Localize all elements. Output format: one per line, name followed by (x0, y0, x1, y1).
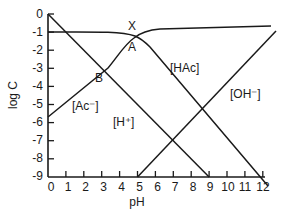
y-tick-label: -9 (32, 169, 43, 183)
x-tick-label: 4 (118, 180, 125, 194)
y-tick-label: 0 (36, 7, 43, 21)
oh-minus-line (138, 31, 277, 177)
x-tick-label: 9 (207, 180, 214, 194)
y-tick-label: -7 (32, 133, 43, 147)
x-tick-label: 11 (239, 180, 252, 194)
x-tick-label: 8 (190, 180, 197, 194)
x-tick-label: 2 (82, 180, 89, 194)
x-tick-label: 5 (136, 180, 143, 194)
y-tick-label: -2 (32, 43, 43, 57)
h-plus-label: [H⁺] (113, 115, 134, 129)
x-tick-label: 1 (65, 180, 72, 194)
y-tick-label: -8 (32, 151, 43, 165)
log-c-ph-chart: 0 -1 -2 -3 -4 -5 -6 -7 -8 -9 0 1 2 3 4 5… (0, 0, 286, 219)
x-tick-label: 12 (256, 180, 270, 194)
x-ticks (66, 171, 263, 177)
x-tick-labels: 0 1 2 3 4 5 6 7 8 9 10 11 12 (48, 180, 270, 194)
y-tick-label: -5 (32, 97, 43, 111)
h-plus-line (48, 14, 209, 177)
y-tick-label: -1 (32, 25, 43, 39)
annotations: X A B [HAc] [OH⁻] [Ac⁻] [H⁺] (72, 19, 261, 129)
point-x-label: X (128, 19, 136, 33)
y-tick-label: -4 (32, 79, 43, 93)
y-tick-labels: 0 -1 -2 -3 -4 -5 -6 -7 -8 -9 (32, 7, 43, 183)
point-a-label: A (128, 40, 136, 54)
y-tick-label: -3 (32, 61, 43, 75)
y-ticks (48, 14, 54, 159)
y-tick-label: -6 (32, 115, 43, 129)
x-tick-label: 3 (100, 180, 107, 194)
x-axis-title: pH (129, 195, 144, 209)
y-axis-title: log C (6, 81, 20, 109)
x-tick-label: 0 (48, 180, 55, 194)
x-tick-label: 10 (221, 180, 235, 194)
ac-minus-label: [Ac⁻] (72, 99, 99, 113)
point-b-label: B (95, 71, 103, 85)
x-tick-label: 7 (172, 180, 179, 194)
x-tick-label: 6 (154, 180, 161, 194)
oh-minus-label: [OH⁻] (230, 87, 261, 101)
hac-label: [HAc] (170, 61, 199, 75)
